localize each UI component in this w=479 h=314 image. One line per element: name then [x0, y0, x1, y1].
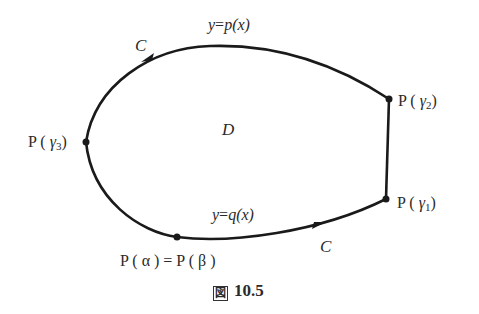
point-gamma2 [386, 96, 393, 103]
func-arg: (x) [236, 206, 254, 223]
gamma-symbol: γ [420, 92, 426, 109]
point-gamma1 [383, 196, 390, 203]
func-arg: (x) [232, 16, 250, 33]
arrow-bottom-icon [312, 222, 326, 229]
point-alpha-beta [174, 234, 181, 241]
paren-open: ( [36, 133, 49, 150]
subscript: 2 [426, 99, 432, 111]
label-p-gamma2: P ( γ2) [398, 93, 437, 109]
upper-function-label: y=p(x) [208, 17, 250, 33]
point-gamma3 [83, 139, 90, 146]
right-segment [386, 99, 389, 199]
func-q: q [228, 206, 236, 223]
label-p-gamma3: P ( γ3) [28, 134, 67, 150]
equals-sign: = [219, 206, 228, 223]
label-p-gamma1: P ( γ1) [397, 195, 436, 211]
paren-close: ) [61, 133, 66, 150]
figure-number: 10.5 [234, 281, 264, 300]
paren-close: ) [431, 92, 436, 109]
gamma-symbol: γ [50, 133, 56, 150]
label-p-alpha-beta: P ( α ) = P ( β ) [120, 253, 215, 269]
paren-close: ) [430, 194, 435, 211]
curve-label-c-bottom: C [320, 238, 331, 255]
subscript: 3 [56, 140, 62, 152]
func-p: p [224, 16, 232, 33]
gamma-symbol: γ [419, 194, 425, 211]
subscript: 1 [425, 201, 431, 213]
paren-open: ( [406, 92, 419, 109]
lower-curve-q [86, 142, 386, 239]
closed-curve-diagram [0, 0, 479, 314]
region-label-d: D [222, 121, 234, 138]
figure-kanji: 図 [213, 286, 228, 301]
figure-caption: 図10.5 [213, 282, 264, 301]
equals-sign: = [215, 16, 224, 33]
curve-label-c-top: C [135, 37, 146, 54]
lower-function-label: y=q(x) [212, 207, 254, 223]
paren-open: ( [405, 194, 418, 211]
upper-curve-p [86, 46, 389, 142]
